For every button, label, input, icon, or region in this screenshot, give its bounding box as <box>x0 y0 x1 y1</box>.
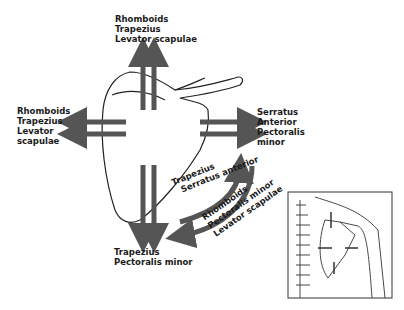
label-top: Rhomboids Trapezius Levator scapulae <box>115 14 197 44</box>
label-bottom: Trapezius Pectoralis minor <box>114 247 193 267</box>
label-line: Trapezius <box>114 247 193 257</box>
inset-figure <box>288 192 392 298</box>
label-left: Rhomboids Trapezius Levator scapulae <box>17 106 70 146</box>
label-line: Pectoralis minor <box>114 257 193 267</box>
label-right: Serratus Anterior Pectoralis minor <box>257 107 305 147</box>
label-line: Levator scapulae <box>115 34 197 44</box>
label-line: Rhomboids <box>17 106 70 116</box>
label-line: scapulae <box>17 136 70 146</box>
label-line: Anterior <box>257 117 305 127</box>
label-line: Rhomboids <box>115 14 197 24</box>
label-line: Trapezius <box>115 24 197 34</box>
label-line: Pectoralis <box>257 127 305 137</box>
label-line: Levator <box>17 126 70 136</box>
label-line: minor <box>257 137 305 147</box>
label-line: Trapezius <box>17 116 70 126</box>
label-line: Serratus <box>257 107 305 117</box>
scapula-diagram <box>0 0 404 310</box>
